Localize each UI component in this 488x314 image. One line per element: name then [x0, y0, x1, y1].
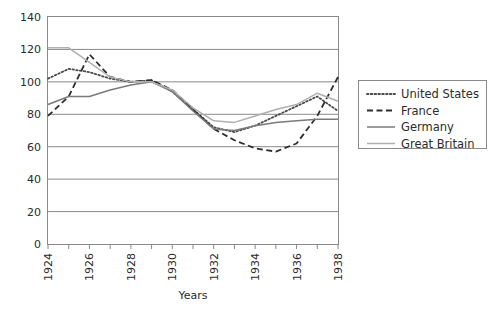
x-tick-label: 1934	[249, 253, 262, 281]
x-tick-label: 1932	[208, 253, 221, 281]
x-axis-title: Years	[177, 289, 207, 302]
line-chart-figure: 020406080100120140 192419261928193019321…	[0, 0, 488, 314]
legend-label-great-britain: Great Britain	[401, 137, 475, 151]
x-tick-label: 1928	[125, 253, 138, 281]
legend-label-united-states: United States	[401, 87, 479, 101]
x-tick-label: 1924	[42, 253, 55, 281]
y-tick-label: 80	[27, 108, 41, 121]
x-tick-label: 1938	[332, 253, 345, 281]
legend-label-france: France	[401, 104, 439, 118]
y-tick-label: 140	[20, 11, 41, 24]
y-tick-label: 40	[27, 173, 41, 186]
x-tick-label: 1936	[291, 253, 304, 281]
y-tick-label: 20	[27, 206, 41, 219]
x-tick-label: 1926	[83, 253, 96, 281]
legend-label-germany: Germany	[401, 120, 454, 134]
y-tick-label: 0	[34, 238, 41, 251]
chart-canvas: 020406080100120140 192419261928193019321…	[0, 0, 488, 314]
plot-area-border	[48, 17, 339, 245]
legend: United StatesFranceGermanyGreat Britain	[359, 81, 487, 151]
y-tick-label: 120	[20, 43, 41, 56]
y-tick-label: 100	[20, 76, 41, 89]
x-tick-label: 1930	[166, 253, 179, 281]
y-tick-label: 60	[27, 141, 41, 154]
